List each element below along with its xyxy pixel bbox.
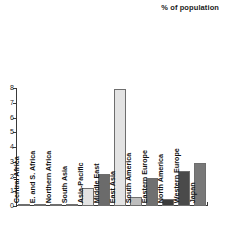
bar[interactable] [18,204,30,206]
bar[interactable] [50,204,62,206]
bar[interactable] [34,204,46,206]
bar-chart-figure: % of population 012345678 Central Africa… [0,0,226,226]
x-axis-endcap [207,202,208,206]
bar-category-label: Western Europe [173,148,180,203]
bar-category-label: E. and S. Africa [29,151,36,203]
bar-category-label: Asia-Pacific [77,162,84,203]
y-tick-label: 4 [10,143,14,150]
bar[interactable] [66,204,78,206]
y-tick-label: 8 [10,84,14,91]
bar-category-label: Middle East [93,163,100,203]
bar-category-label: South Asia [61,166,68,203]
bar-category-label: East Asia [109,171,116,203]
bar-category-label: Japan [189,182,196,203]
bar-category-label: North America [157,154,164,203]
y-tick-label: 5 [10,128,14,135]
chart-title: % of population [161,3,219,12]
bar-category-label: Eastern Europe [141,150,148,203]
bar-category-label: Northern Africa [45,151,52,203]
y-tick-label: 6 [10,114,14,121]
plot-area: 012345678 Central AfricaE. and S. Africa… [16,88,208,206]
bar-group[interactable]: Japan [194,88,206,206]
bar-category-label: Central Africa [13,156,20,203]
y-tick-label: 7 [10,99,14,106]
bar-category-label: South America [125,153,132,203]
